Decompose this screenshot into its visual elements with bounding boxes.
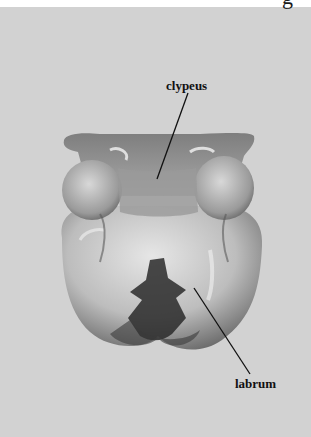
clypeus-label: clypeus <box>166 79 207 92</box>
specimen-photo <box>0 0 311 437</box>
labrum-label: labrum <box>235 377 276 390</box>
